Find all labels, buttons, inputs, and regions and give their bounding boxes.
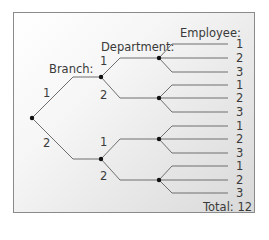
dept-label-b2-2: 2 [100,169,107,183]
employee-label: 1 [236,159,243,173]
dept-node-b1-1 [157,56,161,60]
branch-node-1 [99,75,103,79]
tree-diagram: Branch: Department: Employee: 1 2 1 2 1 … [0,0,269,240]
branch-header: Branch: [49,62,93,76]
dept-label-b1-2: 2 [100,88,107,102]
branch-label-2: 2 [43,136,50,150]
dept-node-b2-1 [157,137,161,141]
edge-b1-dept-1 [101,58,159,77]
employee-label: 3 [236,105,243,119]
employee-label: 3 [236,146,243,160]
employee-label: 1 [236,119,243,133]
employee-label: 3 [236,186,243,200]
employee-edges [159,44,228,193]
employee-label: 1 [236,37,243,51]
branch-label-1: 1 [43,86,50,100]
employee-label: 3 [236,65,243,79]
employee-header: Employee: [180,26,241,40]
edge-b2-dept-1 [101,139,159,159]
branch-node-2 [99,157,103,161]
dept-node-b2-2 [157,178,161,182]
employee-label: 2 [236,132,243,146]
employee-label: 2 [236,173,243,187]
dept-label-b1-1: 1 [100,54,107,68]
department-header: Department: [101,40,174,54]
employee-label: 2 [236,51,243,65]
root-node [30,116,34,120]
employee-label: 2 [236,91,243,105]
edge-b1-dept-2 [101,77,159,98]
edge-b2-dept-2 [101,159,159,180]
branch-edges [101,58,159,180]
employee-label: 1 [236,78,243,92]
dept-node-b1-2 [157,96,161,100]
employee-labels: 1 2 3 1 2 3 1 2 3 1 2 3 [236,37,243,200]
total-label: Total: 12 [202,200,252,214]
dept-label-b2-1: 1 [100,135,107,149]
